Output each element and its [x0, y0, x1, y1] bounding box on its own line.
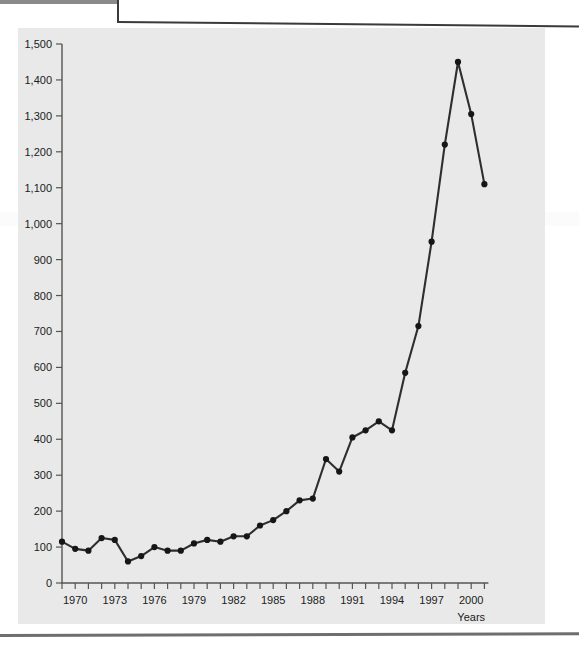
y-axis-tick-label: 1,400: [24, 74, 52, 86]
y-axis-tick-label: 200: [34, 505, 52, 517]
series-point: [349, 434, 355, 440]
series-point: [85, 548, 91, 554]
series-point: [323, 456, 329, 462]
chart-panel: 01002003004005006007008009001,0001,1001,…: [18, 28, 545, 624]
line-chart: 01002003004005006007008009001,0001,1001,…: [18, 28, 545, 624]
x-axis-tick-label: 1976: [142, 594, 166, 606]
y-axis-tick-label: 100: [34, 541, 52, 553]
x-axis-tick-label: 1988: [301, 594, 325, 606]
x-axis: 1970197319761979198219851988199119941997…: [62, 583, 488, 606]
y-axis-tick-label: 400: [34, 433, 52, 445]
x-axis-tick-label: 2000: [459, 594, 483, 606]
series-point: [151, 544, 157, 550]
y-axis-tick-label: 0: [46, 577, 52, 589]
series-point: [244, 533, 250, 539]
series-point: [138, 553, 144, 559]
x-axis-title: Years: [457, 611, 485, 623]
series-point: [415, 323, 421, 329]
series-polyline: [62, 62, 484, 561]
y-axis-tick-label: 300: [34, 469, 52, 481]
x-axis-tick-label: 1982: [221, 594, 245, 606]
series-point: [402, 370, 408, 376]
series-point: [257, 522, 263, 528]
page-edge-top-left: [0, 0, 118, 4]
y-axis-tick-label: 800: [34, 290, 52, 302]
series-point: [125, 558, 131, 564]
y-axis-tick-label: 600: [34, 361, 52, 373]
series-point: [178, 548, 184, 554]
series-point: [481, 181, 487, 187]
x-axis-tick-label: 1991: [340, 594, 364, 606]
series-point: [231, 533, 237, 539]
x-axis-tick-label: 1970: [63, 594, 87, 606]
y-axis: 01002003004005006007008009001,0001,1001,…: [24, 38, 62, 589]
series-point: [389, 427, 395, 433]
x-axis-tick-label: 1973: [103, 594, 127, 606]
series-point: [376, 418, 382, 424]
x-axis-tick-label: 1994: [380, 594, 404, 606]
series-point: [72, 546, 78, 552]
series-point: [217, 539, 223, 545]
series-point: [429, 239, 435, 245]
x-axis-title-label: Years: [457, 611, 485, 623]
x-axis-tick-label: 1997: [419, 594, 443, 606]
series-point: [468, 111, 474, 117]
series-point: [310, 495, 316, 501]
y-axis-tick-label: 1,500: [24, 38, 52, 50]
series-point: [112, 537, 118, 543]
y-axis-tick-label: 1,300: [24, 110, 52, 122]
series-point: [363, 427, 369, 433]
y-axis-tick-label: 1,100: [24, 182, 52, 194]
series-point: [59, 539, 65, 545]
data-series: [59, 59, 488, 565]
y-axis-tick-label: 1,000: [24, 218, 52, 230]
y-axis-tick-label: 700: [34, 325, 52, 337]
series-point: [455, 59, 461, 65]
page-bottom-rule: [0, 632, 579, 637]
x-axis-tick-label: 1985: [261, 594, 285, 606]
y-axis-tick-label: 500: [34, 397, 52, 409]
series-point: [191, 540, 197, 546]
series-point: [336, 469, 342, 475]
x-axis-tick-label: 1979: [182, 594, 206, 606]
series-point: [165, 548, 171, 554]
page-edge-vertical-rule: [117, 0, 119, 23]
series-point: [270, 517, 276, 523]
series-point: [204, 537, 210, 543]
series-point: [99, 535, 105, 541]
series-point: [442, 142, 448, 148]
page-edge-top-rule: [118, 21, 579, 27]
series-point: [297, 497, 303, 503]
y-axis-tick-label: 900: [34, 254, 52, 266]
y-axis-tick-label: 1,200: [24, 146, 52, 158]
series-point: [283, 508, 289, 514]
